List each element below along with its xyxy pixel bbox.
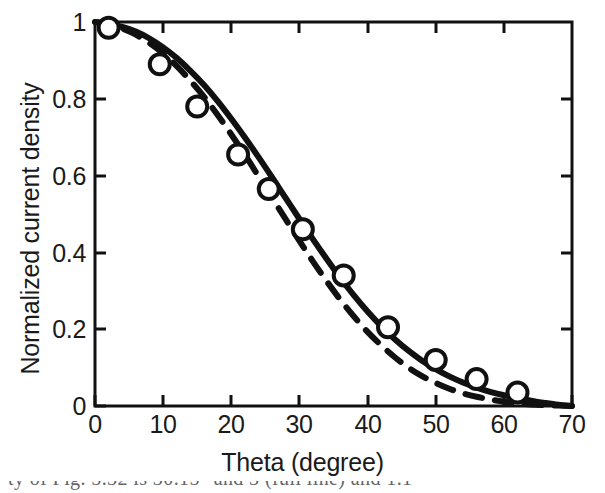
- data-point-marker: [378, 317, 398, 337]
- x-axis-title: Theta (degree): [0, 448, 605, 477]
- xtick-label-30: 30: [285, 410, 312, 439]
- y-axis-title-wrap: Normalized current density: [16, 79, 45, 379]
- data-point-marker: [467, 369, 487, 389]
- model-solid-curve: [95, 22, 572, 406]
- data-point-marker: [334, 265, 354, 285]
- xtick-label-40: 40: [354, 410, 381, 439]
- data-point-marker: [259, 179, 279, 199]
- data-point-marker: [507, 383, 527, 403]
- figure-panel: 0 10 20 30 40 50 60 70 0 0.2 0.4 0.6 0.8…: [0, 0, 605, 493]
- ytick-label-0.2: 0.2: [52, 315, 86, 344]
- xtick-label-0: 0: [88, 410, 102, 439]
- axis-ticks: [95, 22, 572, 406]
- axis-box: [95, 22, 572, 406]
- ytick-label-0: 0: [72, 392, 86, 421]
- data-point-marker: [426, 350, 446, 370]
- xtick-label-50: 50: [422, 410, 449, 439]
- ytick-label-0.4: 0.4: [52, 239, 86, 268]
- ytick-label-0.6: 0.6: [52, 162, 86, 191]
- data-point-markers: [99, 18, 528, 403]
- xtick-label-20: 20: [217, 410, 244, 439]
- xtick-label-60: 60: [490, 410, 517, 439]
- data-point-marker: [150, 54, 170, 74]
- xtick-label-70: 70: [558, 410, 585, 439]
- data-point-marker: [99, 18, 119, 38]
- data-point-marker: [228, 144, 248, 164]
- cropped-caption-text: ty of Fig. 5.32 is 30.15° and 3 (full li…: [8, 481, 412, 490]
- xtick-label-10: 10: [149, 410, 176, 439]
- data-curves: [95, 22, 572, 406]
- y-axis-title: Normalized current density: [16, 82, 44, 374]
- data-point-marker: [293, 219, 313, 239]
- ytick-label-1: 1: [72, 8, 86, 37]
- theory-dashed-curve: [95, 22, 572, 406]
- data-point-marker: [187, 96, 207, 116]
- axis-frame: [95, 22, 572, 406]
- cropped-caption-strip: ty of Fig. 5.32 is 30.15° and 3 (full li…: [0, 481, 605, 493]
- ytick-label-0.8: 0.8: [52, 85, 86, 114]
